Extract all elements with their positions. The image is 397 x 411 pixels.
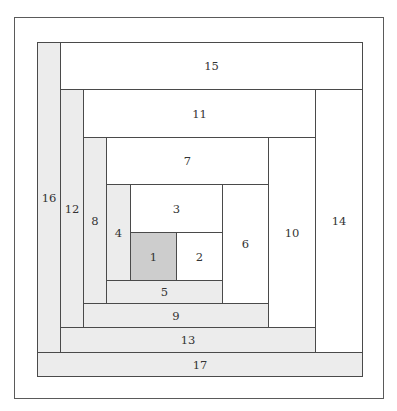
block-label: 17: [193, 358, 208, 372]
block-16: 16: [37, 42, 61, 353]
block-label: 16: [42, 191, 57, 205]
block-label: 1: [150, 250, 157, 264]
block-10: 10: [268, 137, 316, 328]
block-3: 3: [130, 184, 223, 233]
block-label: 5: [161, 285, 168, 299]
block-label: 13: [181, 333, 196, 347]
block-label: 15: [204, 59, 219, 73]
block-label: 4: [115, 226, 122, 240]
block-label: 14: [332, 214, 347, 228]
block-6: 6: [222, 184, 269, 304]
block-label: 10: [285, 226, 300, 240]
block-label: 11: [192, 107, 207, 121]
block-1: 1: [130, 232, 177, 281]
block-2: 2: [176, 232, 223, 281]
block-17: 17: [37, 352, 363, 377]
block-label: 12: [65, 202, 80, 216]
block-label: 8: [91, 214, 98, 228]
block-12: 12: [60, 89, 84, 328]
block-15: 15: [60, 42, 363, 90]
block-8: 8: [83, 137, 107, 304]
block-14: 14: [315, 89, 363, 353]
block-7: 7: [106, 137, 269, 185]
block-13: 13: [60, 327, 316, 353]
block-label: 6: [242, 237, 249, 251]
block-label: 2: [196, 250, 203, 264]
block-9: 9: [83, 303, 269, 328]
block-label: 9: [172, 309, 179, 323]
block-11: 11: [83, 89, 316, 138]
block-label: 7: [184, 154, 191, 168]
block-label: 3: [173, 202, 180, 216]
block-5: 5: [106, 280, 223, 304]
block-4: 4: [106, 184, 131, 281]
